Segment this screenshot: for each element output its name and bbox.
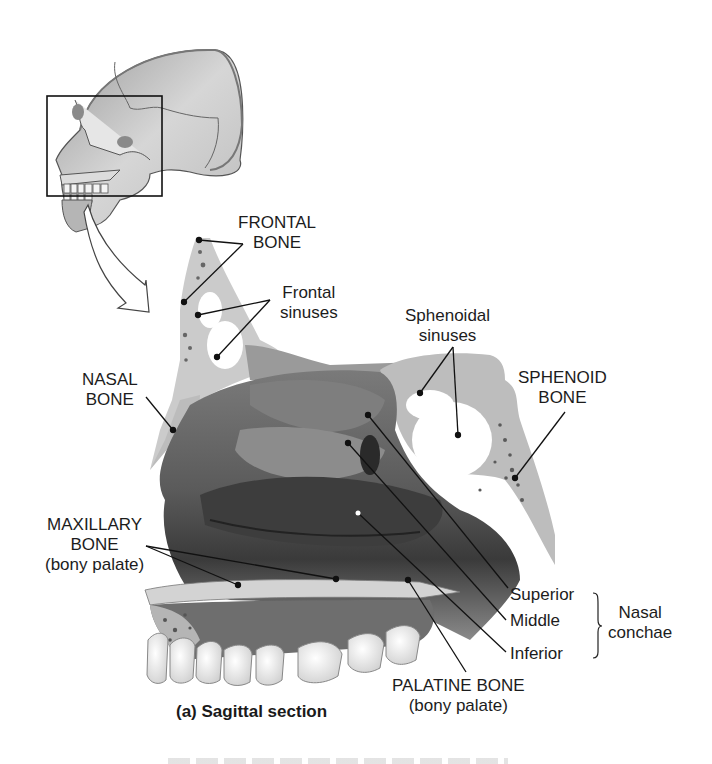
label-concha-inferior: Inferior <box>510 644 563 664</box>
label-frontal-bone: FRONTAL BONE <box>238 213 316 253</box>
sphenoidal-sinus-large <box>412 402 492 478</box>
curved-arrow-icon <box>84 205 149 312</box>
label-sphenoidal-sinuses: Sphenoidal sinuses <box>405 306 490 346</box>
inset-skull <box>47 50 243 232</box>
label-frontal-sinuses: Frontal sinuses <box>280 283 338 323</box>
label-maxillary-bone: MAXILLARY BONE (bony palate) <box>45 515 144 575</box>
cutoff-text-line <box>168 758 508 764</box>
label-palatine-bone: PALATINE BONE (bony palate) <box>392 676 525 716</box>
conchae-bracket <box>593 593 602 658</box>
label-concha-superior: Superior <box>510 585 574 605</box>
figure-caption: (a) Sagittal section <box>176 702 327 722</box>
frontal-sinus-lower <box>207 321 243 369</box>
sagittal-section <box>145 238 555 685</box>
label-sphenoid-bone: SPHENOID BONE <box>518 368 607 408</box>
label-nasal-bone: NASAL BONE <box>82 370 138 410</box>
frontal-sinus-upper <box>198 292 222 328</box>
label-nasal-conchae: Nasal conchae <box>608 603 672 643</box>
label-concha-middle: Middle <box>510 611 560 631</box>
